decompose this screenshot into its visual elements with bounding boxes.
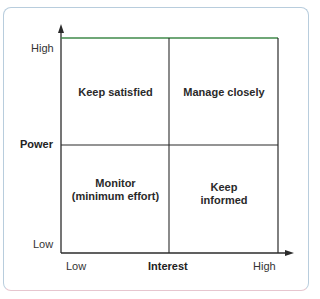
y-axis-high-label: High [31, 42, 54, 54]
y-axis-low-label: Low [33, 238, 53, 250]
quadrant-manage-closely: Manage closely [170, 39, 278, 145]
quadrant-label: Keep satisfied [78, 86, 153, 99]
quadrant-keep-satisfied: Keep satisfied [62, 39, 169, 145]
quadrant-label: Manage closely [183, 86, 264, 99]
x-axis-arrow-icon [285, 250, 294, 256]
quadrant-label-line1: Monitor [95, 177, 135, 190]
x-axis-title: Interest [148, 260, 188, 272]
quadrant-keep-informed: Keep informed [170, 146, 278, 242]
x-axis-high-label: High [253, 260, 276, 272]
y-axis-title: Power [20, 138, 53, 150]
quadrant-label-line2: informed [200, 194, 247, 207]
y-axis-arrow-icon [58, 24, 64, 33]
quadrant-monitor: Monitor (minimum effort) [62, 146, 169, 234]
quadrant-label-line2: (minimum effort) [72, 190, 159, 203]
x-axis-low-label: Low [66, 260, 86, 272]
quadrant-label-line1: Keep [211, 181, 238, 194]
